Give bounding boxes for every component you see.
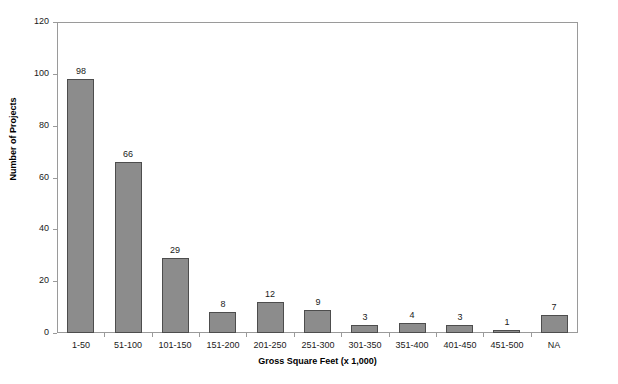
y-axis-tick: 60 (0, 178, 57, 179)
x-tick-mark (483, 333, 484, 337)
bar-value-label: 3 (340, 312, 390, 323)
y-axis-tick: 40 (0, 229, 57, 230)
bar (67, 79, 94, 333)
y-axis-tick: 20 (0, 281, 57, 282)
bar-value-label: 7 (529, 302, 579, 313)
bar-value-label: 8 (198, 299, 248, 310)
bar (257, 302, 284, 333)
x-tick-mark (436, 333, 437, 337)
y-axis-tick: 100 (0, 74, 57, 75)
y-tick-mark (53, 333, 57, 334)
y-axis-tick: 120 (0, 22, 57, 23)
bar-value-label: 3 (435, 312, 485, 323)
bar (493, 330, 520, 333)
bar (115, 162, 142, 333)
x-tick-mark (341, 333, 342, 337)
y-tick-label: 100 (34, 68, 49, 79)
y-tick-label: 120 (34, 16, 49, 27)
bar (399, 323, 426, 333)
bar (351, 325, 378, 333)
x-tick-label: NA (524, 340, 584, 351)
y-tick-label: 80 (39, 120, 49, 131)
bar-value-label: 4 (387, 310, 437, 321)
y-axis-title: Number of Projects (8, 69, 18, 209)
bar-chart-figure: Number of Projects 020406080100120 1-505… (0, 0, 618, 384)
bar-value-label: 66 (103, 149, 153, 160)
y-tick-label: 60 (39, 172, 49, 183)
bar-value-label: 29 (150, 245, 200, 256)
x-tick-mark (389, 333, 390, 337)
x-tick-mark (104, 333, 105, 337)
bar-value-label: 9 (293, 297, 343, 308)
bar (209, 312, 236, 333)
x-tick-mark (294, 333, 295, 337)
bar-value-label: 12 (245, 289, 295, 300)
bar (162, 258, 189, 333)
x-tick-mark (199, 333, 200, 337)
x-tick-mark (152, 333, 153, 337)
bar (541, 315, 568, 333)
y-axis-tick: 80 (0, 126, 57, 127)
y-axis-tick: 0 (0, 333, 57, 334)
y-tick-label: 0 (44, 327, 49, 338)
bar (304, 310, 331, 333)
y-tick-label: 20 (39, 275, 49, 286)
x-tick-mark (531, 333, 532, 337)
x-axis-title: Gross Square Feet (x 1,000) (57, 356, 578, 366)
y-tick-label: 40 (39, 223, 49, 234)
bar (446, 325, 473, 333)
bar-value-label: 1 (482, 317, 532, 328)
x-tick-mark (246, 333, 247, 337)
bar-value-label: 98 (56, 66, 106, 77)
